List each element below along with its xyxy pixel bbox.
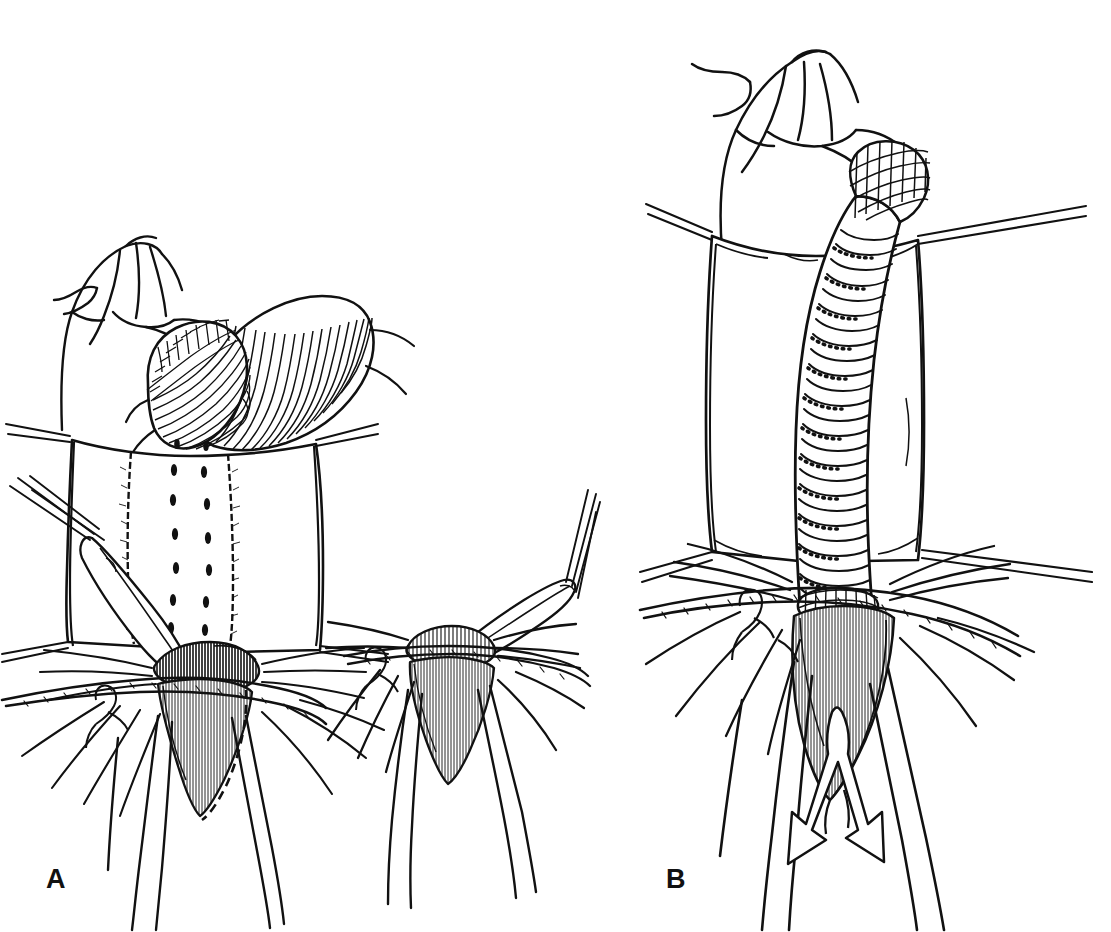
- abdominal-plate-a: [66, 439, 323, 652]
- panel-label-a: A: [46, 866, 66, 893]
- scaled-tube-tip: [849, 140, 930, 222]
- illustration-plate: [0, 0, 1111, 932]
- panel-label-b: B: [666, 866, 686, 893]
- figure-root: A B: [0, 0, 1111, 932]
